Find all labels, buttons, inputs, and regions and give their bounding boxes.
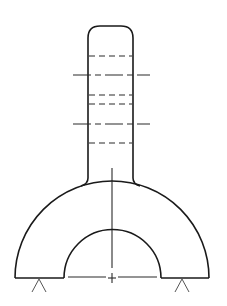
- support-right-icon: [175, 279, 189, 292]
- technical-drawing: [0, 0, 227, 306]
- stem-outline: [88, 26, 140, 186]
- support-left-icon: [32, 279, 46, 292]
